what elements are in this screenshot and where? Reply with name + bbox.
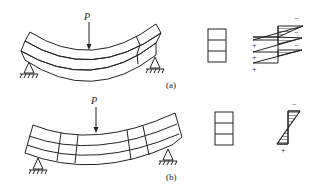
load-label-b: P xyxy=(90,95,97,106)
cross-section-a xyxy=(208,29,226,62)
stress-signs-a: − − − + + + xyxy=(252,14,299,74)
svg-text:+: + xyxy=(252,65,257,74)
right-support-b xyxy=(159,149,177,165)
stress-diagram-b xyxy=(277,111,300,144)
svg-text:−: − xyxy=(294,28,299,37)
left-support-a xyxy=(20,62,38,78)
svg-text:−: − xyxy=(294,41,299,50)
svg-text:+: + xyxy=(252,41,257,50)
load-arrow-b xyxy=(94,107,99,133)
left-support-b xyxy=(29,158,47,174)
right-support-a xyxy=(146,57,164,73)
panel-a-label: (a) xyxy=(166,80,176,90)
stress-sign-bottom-b: + xyxy=(281,146,286,155)
figure-canvas: P (a) − − − xyxy=(0,0,321,195)
svg-text:+: + xyxy=(252,53,257,62)
load-label-a: P xyxy=(83,11,90,22)
panel-b-beam xyxy=(25,113,182,165)
svg-text:−: − xyxy=(294,14,299,23)
cross-section-b xyxy=(215,112,233,145)
panel-b-label: (b) xyxy=(166,172,177,182)
panel-a-beam xyxy=(21,24,161,81)
load-arrow-a xyxy=(87,22,92,50)
stress-sign-top-b: − xyxy=(292,100,297,109)
